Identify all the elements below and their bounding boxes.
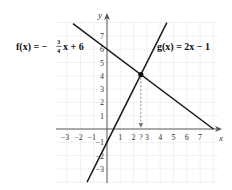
x-tick-label: −3 bbox=[61, 133, 70, 142]
y-tick-labels: 7654321−1−2−3 bbox=[95, 32, 104, 174]
f-eq-suffix: x + 6 bbox=[63, 41, 84, 52]
y-tick-label: −1 bbox=[95, 138, 104, 147]
x-tick-label: 2 bbox=[132, 133, 136, 142]
g-equation-label: g(x) = 2x − 1 bbox=[157, 41, 210, 53]
x-tick-label: 4 bbox=[158, 133, 162, 142]
x-tick-label: 1 bbox=[118, 133, 122, 142]
f-equation-label: f(x) = − 3 4 x + 6 bbox=[16, 38, 84, 54]
x-tick-label: 6 bbox=[185, 133, 189, 142]
y-tick-label: 7 bbox=[100, 32, 104, 41]
x-axis-label: x bbox=[218, 133, 223, 143]
x-tick-label: 5 bbox=[172, 133, 176, 142]
f-eq-denominator: 4 bbox=[57, 47, 61, 54]
y-axis-label: y bbox=[97, 10, 102, 20]
f-eq-prefix: f(x) = − bbox=[16, 41, 48, 53]
drop-arrow-icon bbox=[139, 123, 144, 128]
y-tick-label: 1 bbox=[100, 112, 104, 121]
y-tick-label: 3 bbox=[100, 85, 104, 94]
intersection-point bbox=[138, 72, 143, 77]
x-tick-labels: −3−2−112?34567 bbox=[61, 133, 202, 142]
y-tick-label: 4 bbox=[100, 72, 104, 81]
x-tick-label: 7 bbox=[198, 133, 202, 142]
coordinate-plane: x y −3−2−112?34567 7654321−1−2−3 f(x) = … bbox=[0, 0, 232, 190]
x-tick-label: 3 bbox=[145, 133, 149, 142]
y-tick-label: 5 bbox=[100, 59, 104, 68]
y-tick-label: −3 bbox=[95, 165, 104, 174]
y-tick-label: 2 bbox=[100, 98, 104, 107]
f-eq-numerator: 3 bbox=[57, 38, 61, 45]
line-f bbox=[73, 24, 213, 129]
x-tick-label: −2 bbox=[74, 133, 83, 142]
x-tick-label: ? bbox=[139, 133, 143, 142]
